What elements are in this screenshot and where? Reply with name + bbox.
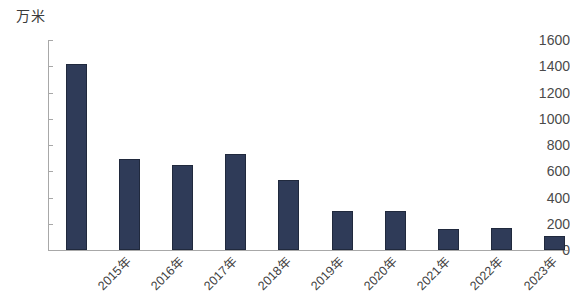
bar[interactable] [385,211,406,250]
y-tick-mark [48,224,53,225]
y-tick-mark [48,40,53,41]
x-tick-label: 2020年 [362,255,400,293]
y-tick-label: 200 [528,217,570,231]
y-tick-label: 400 [528,191,570,205]
x-tick-label: 2015年 [96,255,134,293]
x-tick-label: 2017年 [202,255,240,293]
x-tick-label: 2016年 [149,255,187,293]
y-tick-label: 1400 [528,59,570,73]
chart-page: 万米 16001400120010008006004002000 2015年20… [0,0,570,302]
y-tick-mark [48,119,53,120]
x-tick-label: 2018年 [256,255,294,293]
bar[interactable] [172,165,193,250]
y-tick-mark [48,145,53,146]
plot-area: 16001400120010008006004002000 2015年2016年… [0,0,570,302]
x-tick-label: 2023年 [522,255,560,293]
x-tick-label: 2022年 [468,255,506,293]
bar[interactable] [438,229,459,250]
y-tick-label: 1000 [528,112,570,126]
x-tick-label: 2019年 [309,255,347,293]
y-tick-mark [48,66,53,67]
y-tick-mark [48,93,53,94]
y-tick-label: 800 [528,138,570,152]
bar[interactable] [491,228,512,250]
bar[interactable] [544,236,565,250]
y-tick-label: 1200 [528,86,570,100]
bar[interactable] [119,159,140,250]
bar[interactable] [225,154,246,250]
bar[interactable] [278,180,299,250]
y-tick-mark [48,171,53,172]
y-tick-mark [48,250,53,251]
x-tick-label: 2021年 [415,255,453,293]
bar[interactable] [332,211,353,250]
x-axis-line [48,250,568,251]
y-tick-mark [48,198,53,199]
y-tick-label: 600 [528,164,570,178]
y-tick-label: 1600 [528,33,570,47]
bar[interactable] [66,64,87,250]
